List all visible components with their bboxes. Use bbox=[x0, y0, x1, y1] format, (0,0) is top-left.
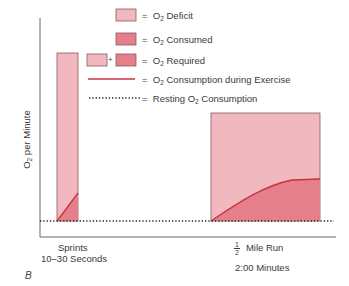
legend-item-deficit: = O2 Deficit bbox=[142, 10, 193, 21]
run-label-line1: 12Mile Run bbox=[234, 241, 283, 256]
legend-item-required: = O2 Required bbox=[142, 55, 205, 66]
fraction-numerator: 1 bbox=[234, 241, 240, 249]
sprint-label-line1: Sprints bbox=[58, 242, 88, 253]
sprint-bar bbox=[57, 53, 78, 221]
run-label-line2: 2:00 Minutes bbox=[235, 262, 289, 273]
legend-swatch-deficit bbox=[116, 9, 136, 21]
y-axis-label: O2 per Minute bbox=[21, 100, 32, 180]
fraction-denominator: 2 bbox=[234, 249, 240, 256]
y-axis-label-text: O bbox=[21, 161, 32, 168]
legend-text: Required bbox=[164, 55, 205, 66]
legend-item-consumption-exercise: = O2 Consumption during Exercise bbox=[142, 74, 291, 85]
equals-sign: = bbox=[142, 93, 148, 104]
legend-text: Consumption bbox=[199, 93, 258, 104]
equals-sign: = bbox=[142, 10, 148, 21]
legend-swatch-required-deficit bbox=[87, 54, 107, 66]
panel-label: B bbox=[25, 270, 32, 281]
equals-sign: = bbox=[142, 34, 148, 45]
legend-text: Consumed bbox=[164, 34, 213, 45]
sprint-o2-deficit bbox=[57, 53, 78, 221]
legend-swatch-required-consumed bbox=[116, 54, 136, 66]
sprint-label-line2: 10–30 Seconds bbox=[41, 253, 107, 264]
legend-item-resting: = Resting O2 Consumption bbox=[142, 93, 257, 104]
y-axis-label-text: per Minute bbox=[21, 110, 32, 158]
y-axis-label-sub: 2 bbox=[26, 158, 33, 162]
equals-sign: = bbox=[142, 55, 148, 66]
equals-sign: = bbox=[142, 74, 148, 85]
legend-text: Deficit bbox=[164, 10, 193, 21]
legend-plus: + bbox=[108, 54, 113, 65]
run-label-text: Mile Run bbox=[246, 242, 284, 253]
legend-text: Resting O bbox=[153, 93, 195, 104]
run-bar bbox=[211, 113, 320, 221]
legend-item-consumed: = O2 Consumed bbox=[142, 34, 212, 45]
half-fraction: 12 bbox=[234, 241, 240, 256]
legend-text: Consumption during Exercise bbox=[164, 74, 291, 85]
legend-swatch-consumed bbox=[116, 33, 136, 45]
